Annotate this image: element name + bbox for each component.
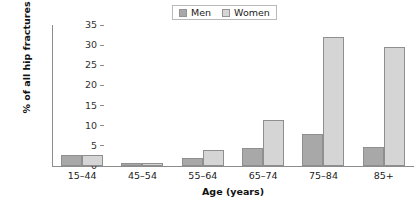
legend-label-women: Women <box>234 8 270 18</box>
bar-women <box>203 150 224 166</box>
x-axis-title: Age (years) <box>52 186 414 197</box>
bar-women <box>142 163 163 166</box>
x-axis-tick-label: 75–84 <box>293 169 353 183</box>
x-axis-tick-labels: 15–4445–5455–6465–7475–8485+ <box>52 169 414 183</box>
legend-entry-women: Women <box>222 8 270 18</box>
chart-legend: Men Women <box>172 5 277 20</box>
bar-group <box>233 25 293 166</box>
bar-women <box>82 155 103 166</box>
bar-men <box>182 158 203 166</box>
bar-group <box>293 25 353 166</box>
y-axis-title: % of all hip fractures <box>21 0 32 128</box>
x-axis-tick-label: 55–64 <box>173 169 233 183</box>
bar-group <box>112 25 172 166</box>
legend-label-men: Men <box>191 8 211 18</box>
x-axis-tick-label: 65–74 <box>233 169 293 183</box>
legend-swatch-men <box>179 9 187 17</box>
bar-men <box>363 147 384 166</box>
x-axis-tick-label: 85+ <box>354 169 414 183</box>
legend-swatch-women <box>222 9 230 17</box>
legend-entry-men: Men <box>179 8 211 18</box>
bar-women <box>323 37 344 166</box>
bar-group <box>173 25 233 166</box>
x-axis-line <box>52 166 414 167</box>
bar-men <box>61 155 82 166</box>
bar-men <box>242 148 263 166</box>
bar-group <box>52 25 112 166</box>
x-axis-tick-label: 15–44 <box>52 169 112 183</box>
x-axis-tick-label: 45–54 <box>112 169 172 183</box>
hip-fracture-bar-chart: Men Women % of all hip fractures 0510152… <box>0 0 419 206</box>
bar-groups <box>52 25 414 166</box>
bar-women <box>263 120 284 166</box>
bar-women <box>384 47 405 166</box>
bar-men <box>121 163 142 166</box>
bar-group <box>354 25 414 166</box>
bar-men <box>302 134 323 166</box>
